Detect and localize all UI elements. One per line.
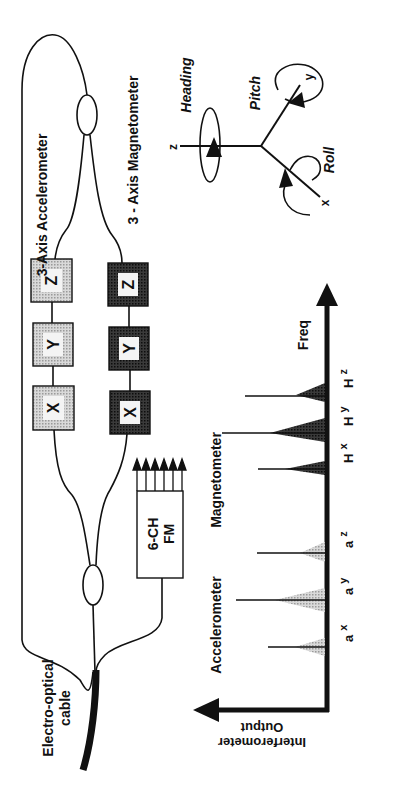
output-axis-arrow-icon xyxy=(193,698,219,722)
fm-multiplexer-box: 6-CH FM xyxy=(133,459,186,578)
spectrum-plot: Freq Interferometer Output Accelerometer… xyxy=(193,283,356,750)
accel-box-y-label: Y xyxy=(45,339,62,350)
peak-label-ay: ay xyxy=(337,577,356,595)
accelerometer-group-label: Accelerometer xyxy=(208,576,224,674)
output-axis-label-line2: Output xyxy=(240,720,283,735)
cable-label-line1: Electro-optical xyxy=(40,659,56,756)
accel-arm-bottom xyxy=(54,430,90,565)
outer-fiber-loop-bottom xyxy=(22,640,93,690)
coupler-to-cable xyxy=(93,605,95,672)
lower-coupler xyxy=(83,565,103,605)
peak-hz xyxy=(245,383,325,402)
mag-box-x: X xyxy=(110,391,150,434)
accelerometer-label: 3-Axis Accelerometer xyxy=(34,133,50,276)
peak-label-hx: Hx xyxy=(337,443,356,463)
y-axis-label: y xyxy=(302,73,316,80)
mag-box-z-label: Z xyxy=(120,279,137,289)
accel-arm-top xyxy=(55,135,84,259)
peak-ay xyxy=(236,588,325,612)
pitch-label: Pitch xyxy=(247,76,263,110)
freq-axis-arrow-icon xyxy=(316,283,338,306)
accel-box-y: Y xyxy=(33,323,73,366)
cable-label-line2: cable xyxy=(57,690,73,726)
svg-text:Hz: Hz xyxy=(337,369,356,388)
roll-rotation-top xyxy=(290,156,320,180)
freq-axis-label: Freq xyxy=(295,320,311,350)
fm-box-line2: FM xyxy=(161,524,177,544)
peak-label-hy: Hy xyxy=(337,406,356,426)
mag-arm-bottom xyxy=(96,434,127,565)
peak-ax xyxy=(268,638,325,656)
electro-optical-cable xyxy=(83,670,96,770)
heading-label: Heading xyxy=(178,57,194,113)
x-axis-line xyxy=(261,146,320,197)
x-axis-label: x xyxy=(318,199,332,206)
magnetometer-label: 3 - Axis Magnetometer xyxy=(125,75,141,224)
mag-arm-top xyxy=(90,135,122,263)
fm-channel-arrows xyxy=(133,459,186,491)
roll-rotation-bottom xyxy=(284,185,310,215)
svg-text:ax: ax xyxy=(337,624,356,642)
svg-text:az: az xyxy=(337,531,356,548)
mag-box-y-label: Y xyxy=(121,343,138,354)
fm-box-line1: 6-CH xyxy=(145,518,161,551)
accel-box-x-label: X xyxy=(45,402,62,413)
mag-box-y: Y xyxy=(109,327,149,370)
svg-text:Hx: Hx xyxy=(337,443,356,463)
upper-coupler xyxy=(77,95,97,135)
y-axis-line xyxy=(261,85,300,146)
fm-lead xyxy=(96,578,162,672)
peak-hy xyxy=(222,418,325,442)
sensor-array: Z Y X Z Y X 3-Axis Accelerom xyxy=(22,35,186,770)
mag-box-x-label: X xyxy=(122,407,139,418)
svg-text:ay: ay xyxy=(337,577,356,595)
magnetometer-group-label: Magnetometer xyxy=(208,432,224,528)
output-axis-label-line1: Interferometer xyxy=(218,735,306,750)
peak-label-az: az xyxy=(337,531,356,548)
z-axis-label: z xyxy=(166,144,180,150)
mag-box-z: Z xyxy=(108,263,148,306)
peak-label-hz: Hz xyxy=(337,369,356,388)
peak-hx xyxy=(258,461,325,475)
fiber-optic-sensor-diagram: Z Y X Z Y X 3-Axis Accelerom xyxy=(0,0,399,793)
svg-text:Hy: Hy xyxy=(337,406,356,426)
roll-label: Roll xyxy=(321,146,337,174)
accel-box-x: X xyxy=(33,386,74,430)
peak-label-ax: ax xyxy=(337,624,356,642)
orientation-axes: z y x Heading Pitch Roll xyxy=(166,57,337,215)
peak-az xyxy=(257,542,325,562)
